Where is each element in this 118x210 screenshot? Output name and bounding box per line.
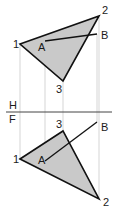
top-label-2: 2 — [102, 4, 108, 16]
top-view-triangle — [20, 16, 99, 81]
top-label-3: 3 — [56, 83, 62, 95]
fold-label-f: F — [9, 113, 16, 125]
top-view: 1 2 3 A B — [13, 4, 108, 95]
descriptive-geometry-diagram: H F 1 2 3 A B 1 2 3 A B — [0, 0, 118, 210]
front-view-triangle — [20, 131, 99, 199]
top-label-1: 1 — [13, 38, 19, 50]
front-view: 1 2 3 A B — [13, 118, 109, 208]
top-label-b: B — [101, 29, 108, 41]
fold-label-h: H — [9, 99, 17, 111]
front-label-3: 3 — [56, 118, 62, 130]
front-label-a: A — [38, 154, 46, 166]
front-label-b: B — [101, 121, 108, 133]
front-label-1: 1 — [13, 153, 19, 165]
top-label-a: A — [38, 41, 46, 53]
front-label-2: 2 — [103, 196, 109, 208]
